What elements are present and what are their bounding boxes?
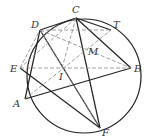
label-A: A — [12, 98, 20, 109]
segment-CI — [62, 18, 76, 68]
label-C: C — [72, 4, 80, 15]
label-T: T — [113, 19, 121, 30]
label-I: I — [58, 71, 64, 82]
label-F: F — [101, 127, 110, 136]
segment-DA — [25, 30, 40, 99]
segment-CB — [76, 18, 131, 68]
label-B: B — [133, 63, 141, 74]
segment-DC — [40, 18, 76, 30]
segment-ED — [20, 30, 40, 68]
label-M: M — [87, 46, 99, 57]
label-E: E — [9, 63, 18, 74]
geometry-diagram: C D T M E B I A F — [0, 0, 144, 136]
segment-CF — [76, 18, 100, 128]
label-D: D — [30, 19, 39, 30]
